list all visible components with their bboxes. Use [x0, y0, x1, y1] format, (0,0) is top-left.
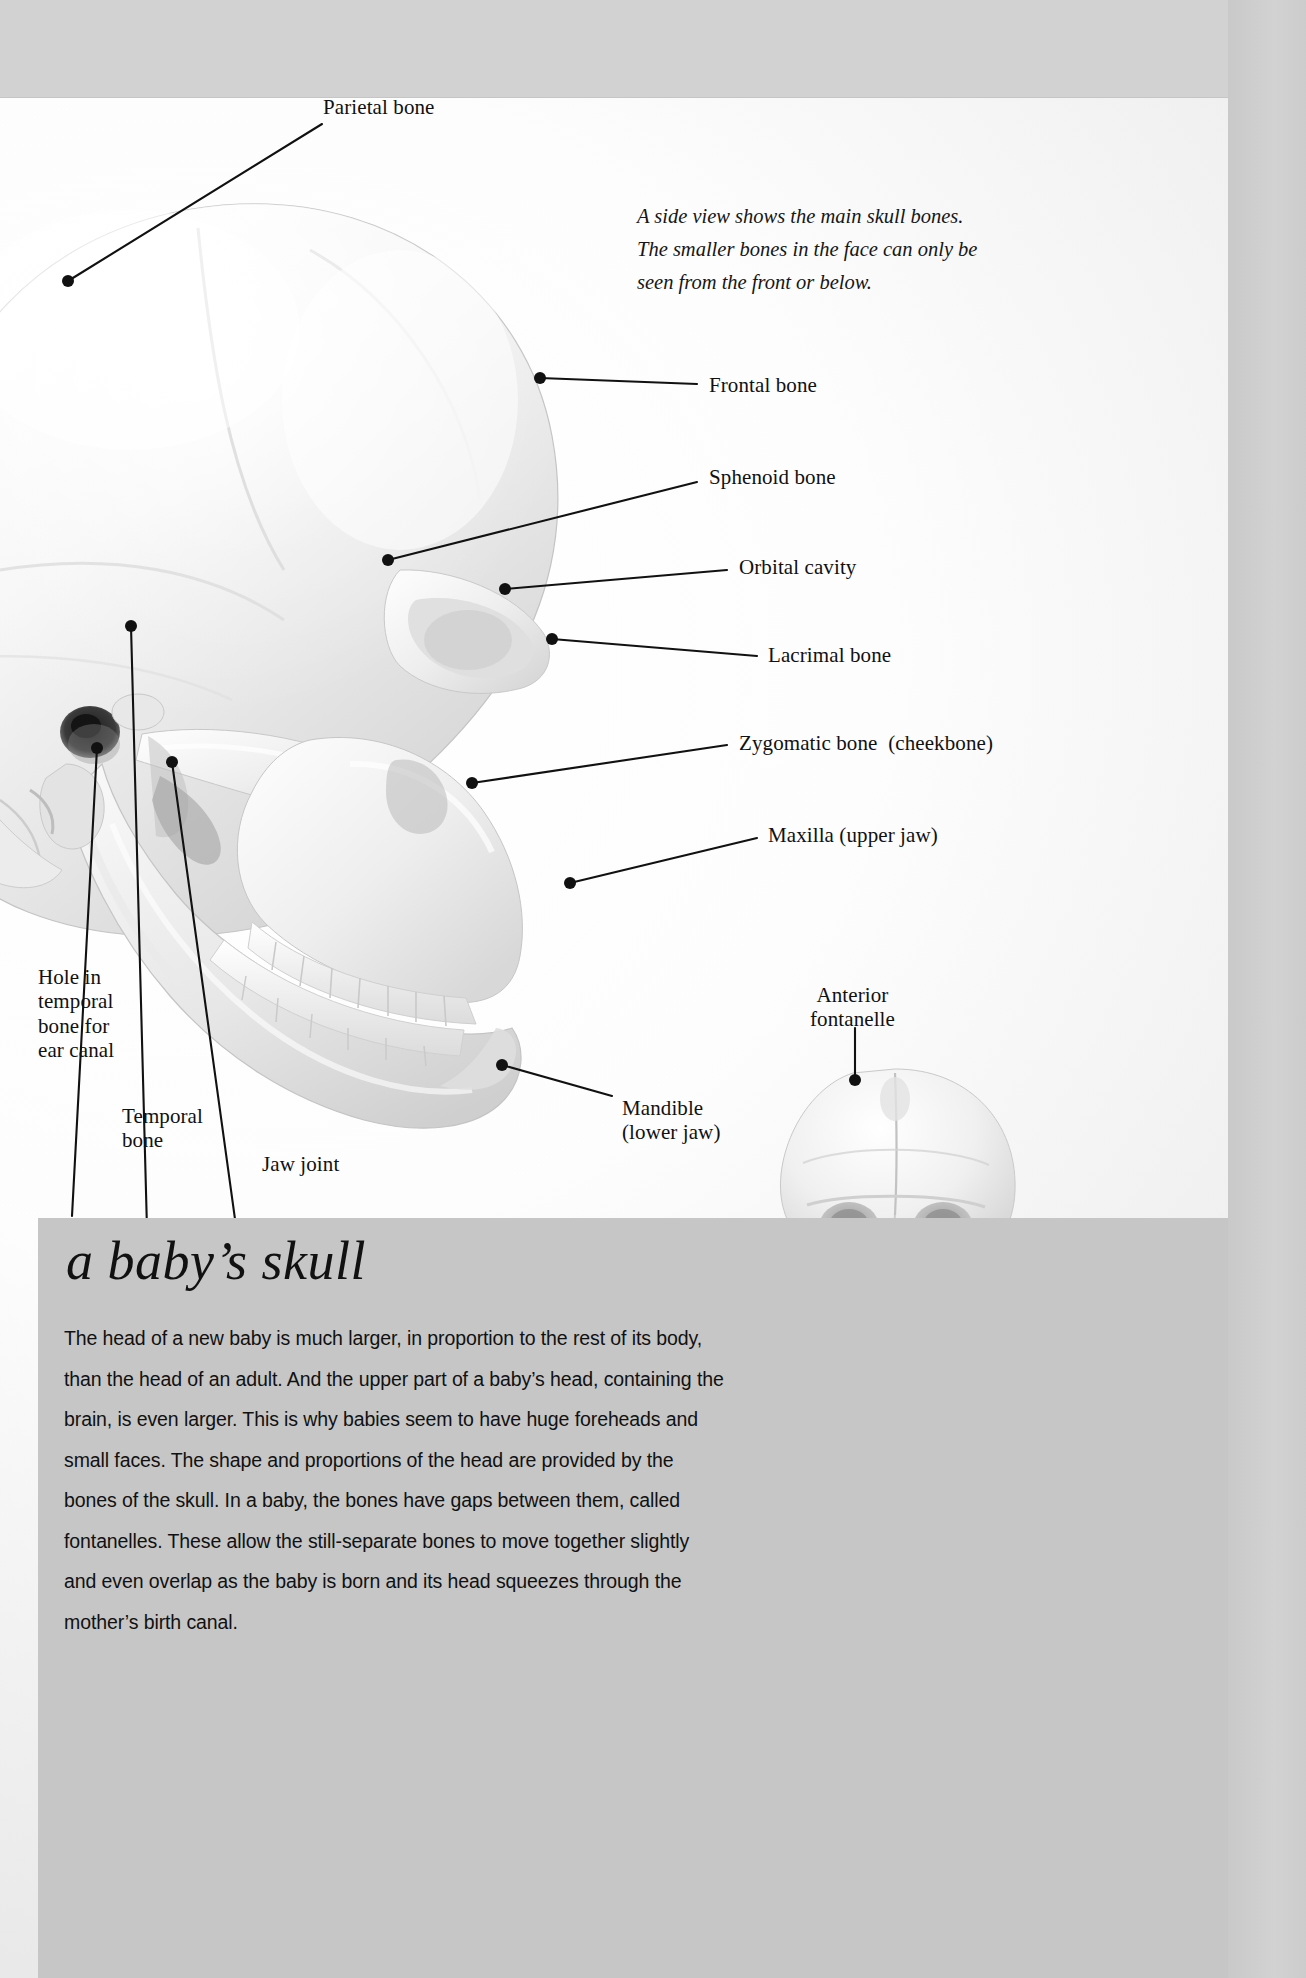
label-hole-in-temporal-bone: Hole in temporal bone for ear canal	[38, 965, 114, 1062]
baby-skull-panel-title: a baby’s skull	[66, 1234, 366, 1288]
label-frontal-bone: Frontal bone	[709, 373, 817, 397]
adult-skull-figure	[0, 100, 740, 1240]
label-sphenoid-bone: Sphenoid bone	[709, 465, 836, 489]
right-margin-band	[1228, 0, 1306, 1978]
label-zygomatic-bone: Zygomatic bone (cheekbone)	[739, 731, 993, 755]
label-temporal-bone: Temporal bone	[122, 1104, 203, 1153]
label-anterior-fontanelle: Anterior fontanelle	[810, 983, 895, 1032]
caption-line-1: A side view shows the main skull bones.	[637, 200, 997, 233]
caption-line-3: seen from the front or below.	[637, 266, 997, 299]
baby-skull-panel-inner: a baby’s skull The head of a new baby is…	[38, 1218, 1228, 1978]
label-orbital-cavity: Orbital cavity	[739, 555, 856, 579]
label-lacrimal-bone: Lacrimal bone	[768, 643, 891, 667]
label-mandible: Mandible (lower jaw)	[622, 1096, 720, 1145]
baby-skull-panel: a baby’s skull The head of a new baby is…	[38, 1218, 1228, 1978]
figure-caption: A side view shows the main skull bones. …	[637, 200, 997, 300]
label-maxilla: Maxilla (upper jaw)	[768, 823, 938, 847]
baby-skull-panel-paragraph: The head of a new baby is much larger, i…	[64, 1318, 724, 1642]
label-jaw-joint: Jaw joint	[262, 1152, 339, 1176]
label-parietal-bone: Parietal bone	[323, 95, 435, 119]
caption-line-2: The smaller bones in the face can only b…	[637, 233, 997, 266]
top-margin-band	[0, 0, 1306, 98]
baby-skull-panel-body: The head of a new baby is much larger, i…	[64, 1318, 724, 1642]
